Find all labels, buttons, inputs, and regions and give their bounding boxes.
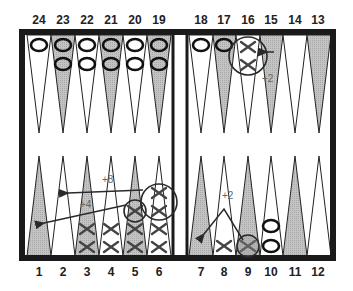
move-label-plus2-lower: +2: [222, 190, 234, 201]
circle-point-9: [237, 235, 259, 257]
backgammon-board: +8 +4 +2 +2: [0, 0, 353, 291]
move-label-plus4: +4: [80, 199, 92, 210]
move-label-plus8: +8: [102, 174, 114, 185]
move-label-plus2-upper: +2: [262, 73, 274, 84]
